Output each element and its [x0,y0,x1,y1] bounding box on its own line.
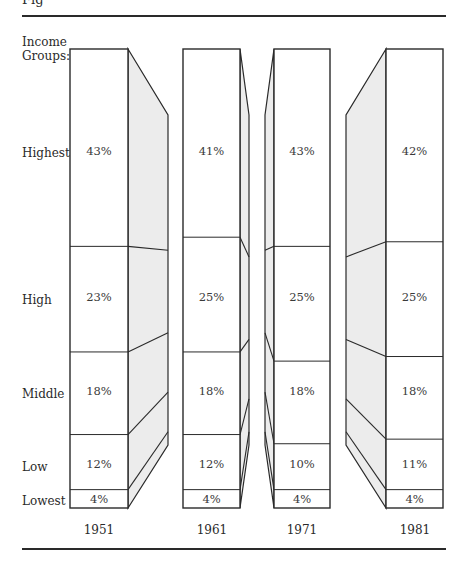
segment-label-1951-middle: 18% [86,384,112,398]
year-label-1961: 1961 [182,523,242,537]
segment-label-1951-highest: 43% [86,144,112,158]
year-label-1951: 1951 [69,523,129,537]
segment-label-1961-high: 25% [199,290,225,304]
segment-label-1981-middle: 18% [402,384,428,398]
bar-1951 [70,49,128,508]
segment-label-1951-low: 12% [86,457,112,471]
bar-1971 [274,49,330,508]
segment-label-1961-lowest: 4% [202,492,220,506]
segment-label-1951-lowest: 4% [90,492,108,506]
bar-1961 [183,49,240,508]
segment-label-1961-middle: 18% [199,384,225,398]
side-panel-1981 [346,49,386,508]
segment-label-1961-highest: 41% [199,144,225,158]
year-label-1981: 1981 [385,523,445,537]
side-panel-1951 [128,49,168,508]
segment-label-1981-lowest: 4% [405,492,423,506]
segment-label-1981-low: 11% [402,457,428,471]
segment-label-1961-low: 12% [199,457,225,471]
segment-label-1971-low: 10% [289,457,315,471]
bottom-rule [22,548,446,550]
segment-label-1981-high: 25% [402,290,428,304]
segment-label-1981-highest: 42% [402,144,428,158]
year-label-1971: 1971 [272,523,332,537]
segment-label-1951-high: 23% [86,290,112,304]
segment-label-1971-lowest: 4% [293,492,311,506]
segment-label-1971-highest: 43% [289,144,315,158]
stacked-bar-chart: 43%23%18%12%4%41%25%18%12%4%43%25%18%10%… [0,0,466,564]
segment-label-1971-middle: 18% [289,384,315,398]
segment-label-1971-high: 25% [289,290,315,304]
